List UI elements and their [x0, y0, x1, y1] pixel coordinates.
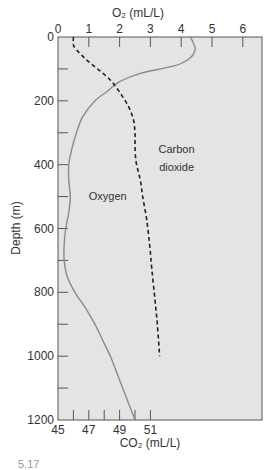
plot-background	[58, 37, 262, 420]
o2-tick-label: 1	[85, 22, 92, 36]
o2-tick-label: 0	[55, 22, 62, 36]
o2-tick-label: 2	[116, 22, 123, 36]
o2-tick-label: 3	[147, 22, 154, 36]
o2-tick-label: 6	[239, 22, 246, 36]
depth-tick-label: 1200	[27, 413, 54, 427]
y-axis-title: Depth (m)	[9, 201, 23, 254]
depth-tick-label: 600	[34, 222, 54, 236]
o2-tick-label: 4	[178, 22, 185, 36]
co2-tick-label: 47	[82, 423, 96, 437]
series-annotation: dioxide	[159, 161, 194, 173]
depth-tick-label: 400	[34, 158, 54, 172]
o2-tick-label: 5	[209, 22, 216, 36]
depth-tick-label: 200	[34, 94, 54, 108]
chart-svg: 012345645474951020040060080010001200O₂ (…	[0, 0, 276, 470]
series-annotation: Oxygen	[89, 190, 127, 202]
depth-tick-label: 0	[47, 30, 54, 44]
co2-tick-label: 49	[113, 423, 127, 437]
series-annotation: Carbon	[159, 143, 195, 155]
figure-caption: 5.17	[18, 458, 39, 470]
co2-tick-label: 51	[144, 423, 158, 437]
depth-tick-label: 800	[34, 285, 54, 299]
bottom-axis-title: CO₂ (mL/L)	[120, 436, 181, 450]
top-axis-title: O₂ (mL/L)	[112, 6, 164, 20]
depth-profile-chart: 012345645474951020040060080010001200O₂ (…	[0, 0, 276, 470]
depth-tick-label: 1000	[27, 349, 54, 363]
